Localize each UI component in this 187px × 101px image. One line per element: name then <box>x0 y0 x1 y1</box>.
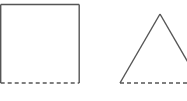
triangle-shape <box>120 14 187 83</box>
triangle-right-edge <box>160 14 187 83</box>
triangle-left-edge <box>120 14 160 83</box>
square-shape <box>1 5 80 84</box>
diagram-canvas <box>0 0 187 101</box>
shapes-figure <box>0 0 187 101</box>
